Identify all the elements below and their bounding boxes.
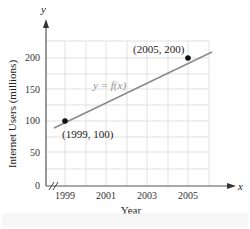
y-axis-symbol: y [40,3,46,15]
x-tick-labels: 1999 2001 2003 2005 [55,190,198,201]
svg-text:200: 200 [25,52,40,63]
chart: y x 0 50 100 150 200 1999 2001 2003 2005… [0,0,250,229]
y-tick-labels: 0 50 100 150 200 [25,52,40,191]
svg-text:2005: 2005 [178,190,198,201]
svg-text:2001: 2001 [96,190,116,201]
point-label: (1999, 100) [62,128,114,141]
data-point [185,55,191,61]
svg-text:0: 0 [35,180,40,191]
svg-text:100: 100 [25,115,40,126]
data-point [62,118,68,124]
svg-text:1999: 1999 [55,190,75,201]
y-axis-title: Internet Users (millions) [6,60,19,168]
svg-text:150: 150 [25,84,40,95]
y-axis-arrow-icon [43,19,49,28]
obscured-caption [2,213,248,227]
svg-text:2003: 2003 [137,190,157,201]
x-axis-arrow-icon [227,183,236,189]
svg-text:50: 50 [30,147,40,158]
series-label: y = f(x) [92,79,126,92]
y-axis: y [40,3,49,186]
point-label: (2005, 200) [133,43,185,56]
grid [46,41,209,186]
x-axis-symbol: x [237,180,243,192]
